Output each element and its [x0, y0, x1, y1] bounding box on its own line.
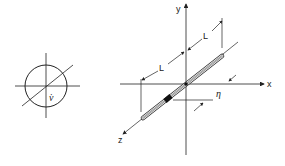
eta-arrow-lower	[194, 103, 203, 111]
diagram-canvas: v̇ y x z L L	[0, 0, 285, 166]
rod-element-segment	[165, 96, 171, 101]
length-label-2: L	[203, 31, 208, 41]
dimension-arrow-L1-start	[142, 71, 158, 80]
rod-view: y x z L L η	[118, 4, 272, 155]
eta-label: η	[216, 88, 221, 99]
dimension-arrow-L1-end	[168, 52, 184, 64]
length-label-1: L	[159, 63, 164, 73]
rod	[143, 56, 222, 118]
dimension-arrow-L2-end	[212, 21, 222, 31]
dimension-arrow-L2-start	[188, 39, 202, 50]
x-axis-label: x	[267, 79, 272, 89]
cross-section-diagonal	[22, 65, 73, 106]
cross-section-view: v̇	[15, 53, 80, 118]
z-axis-label: z	[118, 135, 123, 145]
origin-point	[184, 82, 188, 86]
y-axis-label: y	[176, 4, 181, 14]
v-dot-label: v̇	[49, 92, 54, 103]
eta-arrow-upper	[229, 75, 236, 81]
